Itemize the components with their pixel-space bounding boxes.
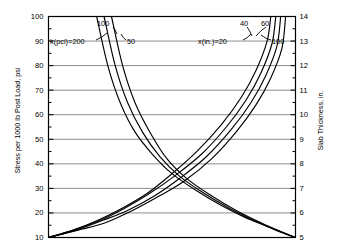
minor-tick-marks: [291, 17, 296, 238]
y-tick-label-right-9: 9: [300, 135, 320, 144]
y-tick-label-left-100: 100: [24, 12, 44, 21]
curve-label-k-50: 50: [127, 37, 135, 46]
y-tick-label-right-14: 14: [300, 12, 320, 21]
curve-label-x-20: x(in.)=20: [198, 37, 227, 46]
y-tick-label-right-7: 7: [300, 184, 320, 193]
curve-group: [49, 17, 296, 238]
y-tick-label-right-5: 5: [300, 233, 320, 242]
y-tick-label-left-50: 50: [24, 135, 44, 144]
y-tick-label-left-90: 90: [24, 37, 44, 46]
y-tick-label-left-40: 40: [24, 159, 44, 168]
y-tick-label-right-11: 11: [300, 86, 320, 95]
y-tick-label-left-10: 10: [24, 233, 44, 242]
nomograph-figure: Stress per 1000 lb Post Load, psi Slab T…: [0, 0, 337, 248]
y-tick-label-left-30: 30: [24, 184, 44, 193]
y-axis-title-left: Stress per 1000 lb Post Load, psi: [13, 41, 22, 201]
y-tick-label-left-60: 60: [24, 110, 44, 119]
label-leader-lines: [96, 27, 271, 40]
curve-label-x-100: 100: [272, 37, 284, 46]
y-tick-label-left-80: 80: [24, 61, 44, 70]
y-tick-label-left-20: 20: [24, 208, 44, 217]
gridlines: [49, 41, 296, 213]
y-tick-label-right-10: 10: [300, 110, 320, 119]
y-tick-label-right-8: 8: [300, 159, 320, 168]
y-tick-label-right-13: 13: [300, 37, 320, 46]
curve-label-k-200: k(pci)=200: [50, 37, 85, 46]
major-tick-marks: [49, 17, 54, 238]
y-tick-label-right-6: 6: [300, 208, 320, 217]
y-tick-label-right-12: 12: [300, 61, 320, 70]
curve-label-x-40: 40: [240, 19, 248, 28]
curve-label-x-60: 60: [261, 19, 269, 28]
curve-label-k-100: 100: [97, 19, 109, 28]
y-tick-label-left-70: 70: [24, 86, 44, 95]
plot-frame: [49, 17, 296, 238]
